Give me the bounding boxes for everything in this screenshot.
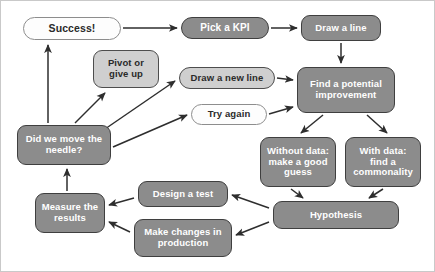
edge-design-a-test-to-measure xyxy=(109,198,134,205)
edge-with-data-to-hypothesis xyxy=(369,189,383,198)
node-did-we-move-the-needle-label: Did we move theneedle? xyxy=(21,134,107,155)
node-make-changes-in-production-label: Make changes inproduction xyxy=(138,227,228,248)
node-hypothesis-label: Hypothesis xyxy=(277,210,395,221)
node-success[interactable]: Success! xyxy=(23,17,121,40)
node-pick-a-kpi[interactable]: Pick a KPI xyxy=(181,17,269,39)
node-measure-the-results[interactable]: Measure theresults xyxy=(35,193,105,233)
node-draw-a-line[interactable]: Draw a line xyxy=(301,15,381,41)
flowchart-canvas: Success! Pick a KPI Draw a line Pivot or… xyxy=(0,0,435,272)
node-without-data[interactable]: Without data:make a goodguess xyxy=(260,137,336,187)
node-draw-a-new-line[interactable]: Draw a new line xyxy=(179,67,275,89)
edge-hypothesis-to-make-changes xyxy=(236,222,269,235)
edge-find-improvement-to-with-data xyxy=(367,115,387,133)
edge-make-changes-to-measure xyxy=(109,222,130,232)
node-pick-a-kpi-label: Pick a KPI xyxy=(185,22,265,33)
edge-did-we-move-to-pivot xyxy=(75,93,105,123)
node-success-label: Success! xyxy=(27,23,117,35)
node-did-we-move-the-needle[interactable]: Did we move theneedle? xyxy=(17,125,111,165)
node-try-again[interactable]: Try again xyxy=(191,104,267,125)
node-draw-a-new-line-label: Draw a new line xyxy=(183,73,271,84)
node-find-a-potential-improvement[interactable]: Find a potentialimprovement xyxy=(297,67,395,113)
node-pivot-or-give-up[interactable]: Pivot orgive up xyxy=(93,50,159,88)
edge-without-data-to-hypothesis xyxy=(291,189,303,198)
edge-draw-new-line-to-find-improvement xyxy=(277,78,293,80)
edge-find-improvement-to-without-data xyxy=(301,115,323,133)
edge-did-we-move-to-draw-new-line xyxy=(105,81,175,129)
node-with-data[interactable]: With data:find acommonality xyxy=(345,137,421,187)
node-hypothesis[interactable]: Hypothesis xyxy=(273,201,399,229)
node-design-a-test[interactable]: Design a test xyxy=(138,181,228,207)
node-draw-a-line-label: Draw a line xyxy=(305,23,377,34)
node-measure-the-results-label: Measure theresults xyxy=(39,202,101,223)
node-pivot-or-give-up-label: Pivot orgive up xyxy=(97,58,155,79)
node-design-a-test-label: Design a test xyxy=(142,189,224,200)
node-find-a-potential-improvement-label: Find a potentialimprovement xyxy=(301,79,391,100)
node-make-changes-in-production[interactable]: Make changes inproduction xyxy=(134,219,232,257)
edge-hypothesis-to-design-a-test xyxy=(232,195,269,208)
edge-try-again-to-find-improvement xyxy=(269,107,293,114)
node-try-again-label: Try again xyxy=(195,109,263,120)
edge-did-we-move-to-try-again xyxy=(113,115,187,147)
node-without-data-label: Without data:make a goodguess xyxy=(264,146,332,178)
node-with-data-label: With data:find acommonality xyxy=(349,146,417,178)
